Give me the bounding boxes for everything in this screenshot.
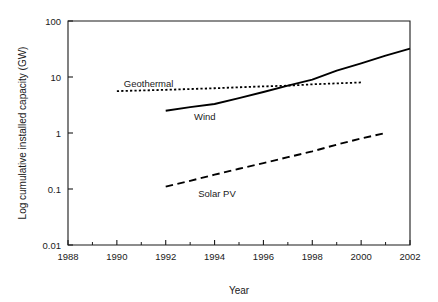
y-tick-label: 1 bbox=[56, 128, 61, 139]
x-tick-label: 1988 bbox=[57, 251, 78, 262]
y-tick-label: 0.01 bbox=[43, 240, 62, 251]
series-label-wind: Wind bbox=[194, 111, 216, 122]
plot-frame bbox=[68, 21, 410, 245]
series-line-wind bbox=[166, 49, 410, 111]
series-annotations: GeothermalWindSolar PV bbox=[124, 78, 237, 199]
x-tick-label: 2002 bbox=[399, 251, 420, 262]
chart-figure: 198819901992199419961998200020020.010.11… bbox=[0, 0, 438, 302]
x-tick-label: 1990 bbox=[106, 251, 127, 262]
y-tick-label: 10 bbox=[50, 72, 61, 83]
y-axis-title: Log cumulative installed capacity (GW) bbox=[17, 47, 28, 220]
x-tick-label: 2000 bbox=[351, 251, 372, 262]
plot-box bbox=[68, 21, 410, 245]
y-tick-label: 100 bbox=[45, 16, 61, 27]
data-series bbox=[117, 49, 410, 187]
series-label-geothermal: Geothermal bbox=[124, 78, 174, 89]
tick-labels: 198819901992199419961998200020020.010.11… bbox=[43, 16, 421, 263]
y-tick-label: 0.1 bbox=[48, 184, 61, 195]
series-line-solar-pv bbox=[166, 133, 386, 187]
x-axis-title: Year bbox=[229, 285, 250, 296]
x-tick-label: 1996 bbox=[253, 251, 274, 262]
x-tick-label: 1994 bbox=[204, 251, 225, 262]
x-tick-label: 1992 bbox=[155, 251, 176, 262]
x-tick-label: 1998 bbox=[302, 251, 323, 262]
chart-canvas: 198819901992199419961998200020020.010.11… bbox=[0, 0, 438, 302]
series-label-solar-pv: Solar PV bbox=[198, 188, 236, 199]
axis-ticks bbox=[68, 21, 410, 245]
